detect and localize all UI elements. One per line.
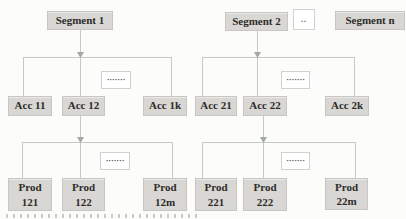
segment-2-node: Segment 2 xyxy=(225,12,288,31)
prod-22m-line1: Prod xyxy=(335,180,358,194)
prod-22m-node: Prod 22m xyxy=(325,178,368,210)
prod-222-node: Prod 222 xyxy=(243,178,287,211)
prod-222-line2: 222 xyxy=(257,195,274,209)
prod-121-node: Prod 121 xyxy=(8,178,52,211)
acc22-subtree-wires xyxy=(202,116,356,178)
segment-n-node: Segment n xyxy=(335,11,405,30)
prod-221-line1: Prod xyxy=(204,180,227,194)
prod-122-node: Prod 122 xyxy=(62,178,105,211)
prod-221-line2: 221 xyxy=(208,195,225,209)
prod-121-line1: Prod xyxy=(18,180,41,194)
cropped-caption-remnant xyxy=(6,214,202,218)
acc1-continuation-dots-box: ······· xyxy=(101,71,131,89)
acc-2k-node: Acc 2k xyxy=(325,96,369,116)
prod-122-line2: 122 xyxy=(75,195,92,209)
segment-account-product-hierarchy-diagram: Segment 1 Segment 2 .. Segment n ·······… xyxy=(0,0,406,219)
prod-222-line1: Prod xyxy=(253,180,276,194)
prod-121-line2: 121 xyxy=(22,195,39,209)
acc-11-node: Acc 11 xyxy=(8,96,52,116)
prod-12m-line2: 12m xyxy=(155,195,175,209)
prod-12m-node: Prod 12m xyxy=(143,178,187,211)
acc12-subtree-wires xyxy=(22,116,173,178)
acc-21-node: Acc 21 xyxy=(195,96,237,116)
prod-12m-line1: Prod xyxy=(153,180,176,194)
prod-22m-line2: 22m xyxy=(336,194,356,208)
segment2-subtree-wires xyxy=(202,31,355,96)
prod2-continuation-dots-box: ······· xyxy=(281,152,310,170)
prod1-continuation-dots-box: ······· xyxy=(100,152,130,170)
segment1-subtree-wires xyxy=(23,30,172,96)
acc-1k-node: Acc 1k xyxy=(143,96,187,116)
prod-122-line1: Prod xyxy=(72,180,95,194)
prod-221-node: Prod 221 xyxy=(195,178,237,211)
segment-1-node: Segment 1 xyxy=(47,11,113,30)
acc-22-node: Acc 22 xyxy=(243,96,287,116)
segment-ellipsis-box: .. xyxy=(293,9,315,30)
acc-12-node: Acc 12 xyxy=(62,96,105,116)
acc2-continuation-dots-box: ······· xyxy=(281,71,310,89)
